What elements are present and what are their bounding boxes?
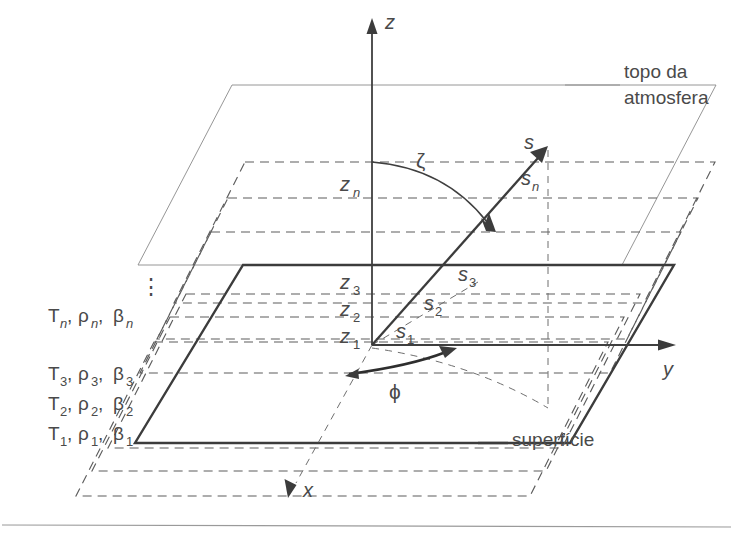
svg-text:n: n: [532, 179, 539, 194]
figure-root: z y x ζ ϕ: [0, 0, 733, 538]
svg-text:ρ: ρ: [78, 305, 89, 326]
azimuth-angle-label: ϕ: [389, 380, 401, 403]
svg-text:s: s: [458, 263, 468, 285]
svg-text:ρ: ρ: [78, 423, 89, 444]
svg-text:,: ,: [98, 393, 103, 414]
svg-text:2: 2: [126, 404, 133, 419]
height-label-z1: z 1: [339, 325, 360, 352]
svg-text:,: ,: [98, 305, 103, 326]
svg-text:s: s: [396, 320, 406, 342]
svg-text:,: ,: [67, 305, 72, 326]
path-label-s1: s 1: [396, 320, 414, 347]
svg-text:T: T: [48, 423, 60, 444]
svg-text:z: z: [339, 325, 350, 347]
layer-label-3: T 3 , ρ 3 , β 3: [48, 363, 133, 389]
x-axis-arrowhead: [285, 479, 297, 498]
svg-text:s: s: [424, 292, 434, 314]
svg-text:β: β: [113, 423, 124, 444]
layer-label-1: T 1 , ρ 1 , β 1: [48, 423, 133, 449]
path-label-sn: s n: [521, 167, 539, 194]
path-label-s2: s 2: [424, 292, 442, 319]
svg-text:β: β: [113, 305, 124, 326]
svg-text:s: s: [524, 131, 534, 153]
svg-text:3: 3: [353, 283, 360, 298]
svg-text:s: s: [521, 167, 531, 189]
svg-text:2: 2: [435, 304, 442, 319]
zenith-angle-arc: ζ: [372, 149, 496, 232]
svg-text:z: z: [339, 271, 350, 293]
height-label-zn: z n: [339, 173, 360, 200]
svg-text:,: ,: [67, 363, 72, 384]
svg-text:3: 3: [126, 374, 133, 389]
svg-text:,: ,: [67, 423, 72, 444]
z-axis-label: z: [384, 11, 395, 33]
svg-text:,: ,: [98, 423, 103, 444]
toa-annotation: topo da atmosfera: [565, 61, 709, 108]
surface-annotation: superfície: [478, 429, 594, 450]
svg-text:1: 1: [353, 337, 360, 352]
layer-property-labels: ⋮ T n , ρ n , β n T 3 , ρ 3 , β 3: [48, 274, 162, 450]
height-labels: z n z 3 z 2 z 1: [339, 173, 360, 352]
x-axis-label: x: [302, 479, 314, 501]
y-axis-label: y: [661, 358, 674, 380]
svg-text:2: 2: [353, 310, 360, 325]
toa-label-line2: atmosfera: [624, 87, 709, 108]
svg-text:ρ: ρ: [78, 363, 89, 384]
azimuth-angle-arc: ϕ: [345, 346, 457, 403]
svg-text:,: ,: [98, 363, 103, 384]
x-axis: x: [285, 345, 373, 501]
azimuth-arc-arrowhead-left: [345, 369, 359, 379]
layer-plane-1: [76, 342, 608, 496]
svg-text:T: T: [48, 393, 60, 414]
svg-text:n: n: [126, 316, 133, 331]
azimuth-arc-arrowhead-right: [439, 346, 457, 358]
path-label-s: s: [524, 131, 534, 153]
svg-text:β: β: [113, 393, 124, 414]
svg-text:T: T: [48, 363, 60, 384]
svg-text:1: 1: [407, 332, 414, 347]
atmosphere-layers-diagram: z y x ζ ϕ: [0, 0, 733, 538]
svg-text:n: n: [353, 185, 360, 200]
bottom-divider: [2, 525, 731, 527]
layer-plane-upper-2: [157, 198, 698, 339]
svg-text:z: z: [339, 298, 350, 320]
layer-label-n: T n , ρ n , β n: [48, 305, 133, 331]
svg-text:1: 1: [126, 434, 133, 449]
height-label-z2: z 2: [339, 298, 360, 325]
svg-text:,: ,: [67, 393, 72, 414]
svg-text:T: T: [48, 305, 60, 326]
toa-label-line1: topo da: [624, 61, 688, 82]
svg-text:ρ: ρ: [78, 393, 89, 414]
svg-text:3: 3: [469, 275, 476, 290]
y-axis-arrowhead: [658, 340, 676, 351]
z-axis-arrowhead: [367, 18, 378, 34]
layers-ellipsis: ⋮: [140, 274, 162, 299]
svg-text:β: β: [113, 363, 124, 384]
path-label-s3: s 3: [458, 263, 476, 290]
z-axis: z: [367, 11, 396, 345]
svg-text:z: z: [339, 173, 350, 195]
zenith-angle-label: ζ: [416, 149, 425, 172]
surface-label: superfície: [512, 429, 594, 450]
